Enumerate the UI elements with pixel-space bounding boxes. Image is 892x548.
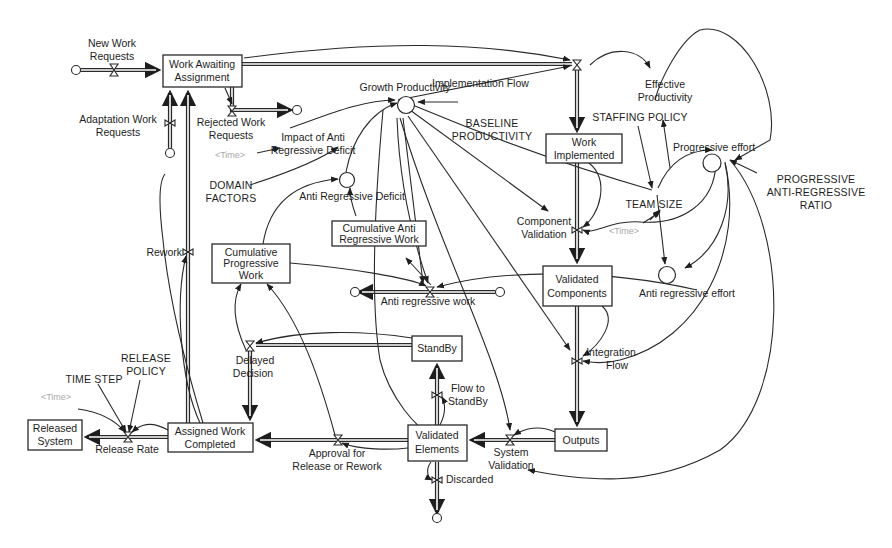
source-cloud-new-work: [72, 66, 81, 75]
stock-cumulative-progressive-work[interactable]: Cumulative Progressive Work: [212, 244, 290, 283]
aux-anti-regressive-deficit[interactable]: [340, 173, 355, 188]
stock-assigned-work-completed[interactable]: Assigned Work Completed: [168, 423, 253, 452]
flow-label-new-work: Requests: [90, 50, 134, 62]
aux-label-growth-productivity: Growth Productivity: [359, 81, 451, 93]
stock-label: Validated: [415, 429, 458, 441]
stock-label: System: [37, 435, 72, 447]
stock-standby[interactable]: StandBy: [412, 336, 462, 361]
aux-anti-regressive-effort[interactable]: [659, 267, 676, 284]
flow-label-delayed-decision: Decision: [233, 367, 273, 379]
aux-label-impact: Regressive Deficit: [271, 144, 356, 156]
const-progressive-ratio: ANTI-REGRESSIVE: [767, 186, 866, 198]
flow-label-flow-to-standby: StandBy: [448, 395, 488, 407]
flow-label-rejected: Requests: [209, 129, 253, 141]
stock-label: Regressive Work: [339, 233, 419, 245]
flow-label-flow-to-standby: Flow to: [451, 382, 485, 394]
stock-work-implemented[interactable]: Work Implemented: [546, 134, 622, 163]
source-cloud-adaptation: [166, 149, 175, 158]
shadow-time: <Time>: [215, 150, 245, 160]
flow-label-approval: Approval for: [309, 447, 366, 459]
aux-label-team-size: TEAM SIZE: [625, 198, 682, 210]
stock-validated-elements[interactable]: Validated Elements: [408, 425, 467, 461]
stock-flow-diagram: Work Awaiting Assignment Work Implemente…: [0, 0, 892, 548]
flow-label-release-rate: Release Rate: [95, 443, 159, 455]
const-baseline-productivity: BASELINE: [466, 117, 519, 129]
flow-label-adaptation: Adaptation Work: [79, 113, 157, 125]
flow-label-adaptation: Requests: [96, 126, 140, 138]
stock-label: Components: [547, 287, 607, 299]
aux-growth-productivity[interactable]: [398, 97, 415, 114]
aux-label-anti-regressive-effort: Anti regressive effort: [639, 287, 735, 299]
flow-label-rework: Rework: [146, 246, 182, 258]
stock-label: Assigned Work: [175, 425, 246, 437]
shadow-time: <Time>: [41, 392, 71, 402]
aux-progressive-effort[interactable]: [703, 154, 721, 172]
flow-label-new-work: New Work: [88, 37, 137, 49]
aux-label-impact: Impact of Anti: [281, 131, 345, 143]
flow-label-integration: Flow: [606, 359, 629, 371]
valve-delayed-decision[interactable]: [246, 341, 254, 351]
shadow-time: <Time>: [609, 226, 639, 236]
flow-label-approval: Release or Rework: [292, 460, 382, 472]
source-cloud-anti-regressive: [496, 288, 505, 297]
stock-cumulative-anti-regressive-work[interactable]: Cumulative Anti Regressive Work: [332, 221, 426, 246]
valve-implementation[interactable]: [573, 60, 581, 70]
const-release-policy: POLICY: [126, 365, 166, 377]
flow-label-delayed-decision: Delayed: [236, 354, 275, 366]
stock-label: Completed: [185, 438, 236, 450]
stock-label: Implemented: [554, 149, 615, 161]
const-staffing-policy: STAFFING POLICY: [592, 111, 688, 123]
stock-outputs[interactable]: Outputs: [555, 429, 607, 451]
flow-label-system-validation: System: [493, 446, 528, 458]
flow-label-rejected: Rejected Work: [197, 116, 266, 128]
aux-label-effective-productivity: Productivity: [638, 91, 693, 103]
aux-label-effective-productivity: Effective: [645, 78, 685, 90]
stock-label: Work: [572, 136, 597, 148]
stock-work-awaiting-assignment[interactable]: Work Awaiting Assignment: [163, 55, 242, 87]
stock-label: Work Awaiting: [169, 58, 235, 70]
stock-validated-components[interactable]: Validated Components: [543, 266, 612, 306]
flow-label-discarded: Discarded: [446, 473, 493, 485]
const-progressive-ratio: RATIO: [800, 199, 832, 211]
flow-label-component-validation: Validation: [521, 228, 566, 240]
const-domain-factors: FACTORS: [206, 192, 257, 204]
stock-label: Released: [33, 422, 78, 434]
const-domain-factors: DOMAIN: [209, 179, 252, 191]
aux-label-progressive-effort: Progressive effort: [673, 141, 755, 153]
flow-label-anti-regressive-work: Anti regressive work: [381, 295, 476, 307]
sink-cloud-discarded: [433, 514, 442, 523]
flow-label-component-validation: Component: [517, 215, 571, 227]
stock-label: Outputs: [563, 434, 600, 446]
stock-label: Elements: [415, 443, 459, 455]
const-time-step: TIME STEP: [65, 373, 122, 385]
flow-label-system-validation: Validation: [488, 459, 533, 471]
stock-label: Progressive: [223, 257, 279, 269]
const-progressive-ratio: PROGRESSIVE: [777, 173, 856, 185]
sink-cloud-rejected: [293, 106, 302, 115]
const-baseline-productivity: PRODUCTIVITY: [452, 130, 533, 142]
stock-released-system[interactable]: Released System: [28, 420, 82, 450]
aux-label-anti-regressive-deficit: Anti Regressive Deficit: [299, 190, 405, 202]
stock-label: Assignment: [175, 71, 230, 83]
const-release-policy: RELEASE: [121, 352, 171, 364]
stock-label: Validated: [555, 273, 598, 285]
sink-cloud-anti-regressive: [351, 288, 360, 297]
stock-label: StandBy: [417, 342, 457, 354]
flow-label-integration: Integration: [586, 346, 636, 358]
stock-label: Work: [239, 269, 264, 281]
